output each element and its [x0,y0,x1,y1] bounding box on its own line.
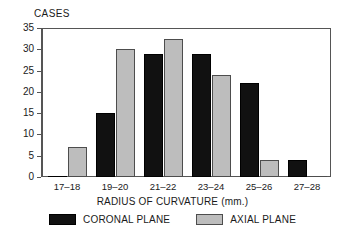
y-tick-label: 5 [28,150,34,161]
bar-axial [308,176,327,178]
y-tick-label: 30 [23,43,34,54]
y-tick-mark [37,156,41,157]
y-tick-mark [37,71,41,72]
x-tick-label: 21–22 [139,181,187,192]
bar-group [187,28,235,177]
y-tick-label: 15 [23,107,34,118]
bar-group [139,28,187,177]
y-tick-label: 0 [28,171,34,182]
x-tick-label: 25–26 [235,181,283,192]
y-tick-mark [37,134,41,135]
bar-coronal [240,83,259,177]
y-tick-mark [37,92,41,93]
bar-coronal [96,113,115,177]
bar-group [91,28,139,177]
x-tick-label: 19–20 [91,181,139,192]
legend-entry: AXIAL PLANE [196,214,296,225]
x-tick-label: 27–28 [283,181,331,192]
bar-group [283,28,331,177]
bar-chart-figure: CASES 05101520253035 17–1819–2021–2223–2… [0,0,345,237]
y-tick-mark [37,28,41,29]
x-tick-label: 17–18 [43,181,91,192]
bar-group [235,28,283,177]
y-axis-title: CASES [34,8,70,19]
bar-axial [68,147,87,177]
chart-legend: CORONAL PLANEAXIAL PLANE [0,214,345,225]
y-tick-mark [37,177,41,178]
bar-axial [116,49,135,177]
legend-label: AXIAL PLANE [230,214,296,225]
y-tick-mark [37,49,41,50]
bar-axial [260,160,279,177]
legend-swatch-axial [196,214,223,225]
legend-label: CORONAL PLANE [83,214,170,225]
bar-coronal [192,54,211,177]
bar-axial [212,75,231,177]
bar-coronal [288,160,307,177]
legend-entry: CORONAL PLANE [49,214,170,225]
y-tick-mark [37,113,41,114]
bar-coronal [48,176,67,178]
y-tick-label: 20 [23,86,34,97]
bar-group [43,28,91,177]
y-tick-label: 25 [23,65,34,76]
legend-swatch-coronal [49,214,76,225]
x-tick-label: 23–24 [187,181,235,192]
x-axis-title: RADIUS OF CURVATURE (mm.) [0,196,345,207]
plot-area [43,28,331,177]
y-tick-label: 10 [23,128,34,139]
y-tick-label: 35 [23,22,34,33]
bar-coronal [144,54,163,177]
bar-axial [164,39,183,177]
